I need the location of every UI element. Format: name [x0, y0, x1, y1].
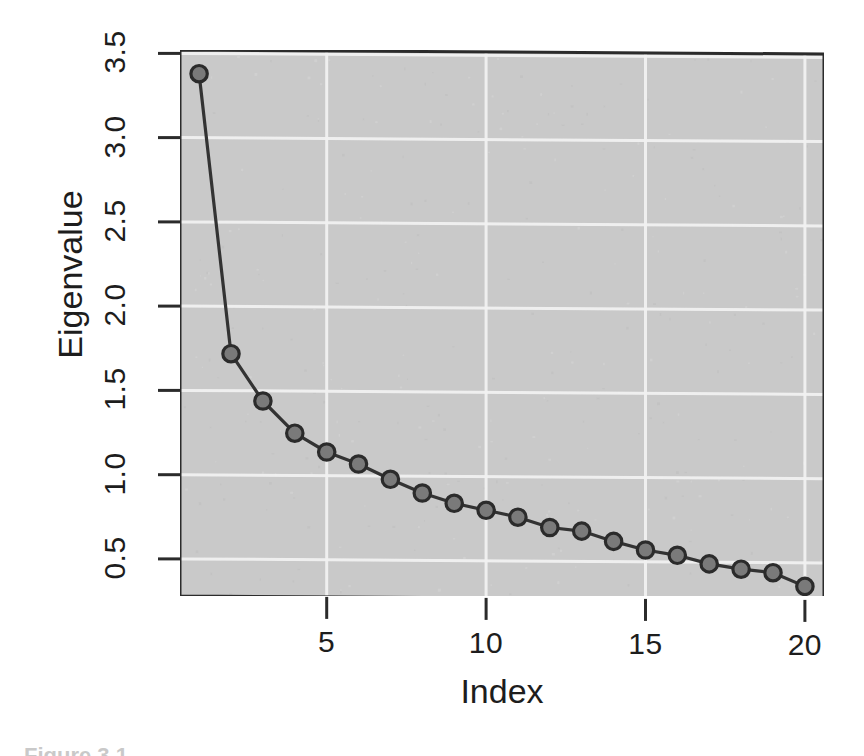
x-tick-label: 20 — [765, 628, 845, 662]
y-tick-label: 3.5 — [98, 7, 132, 97]
x-tick-label: 5 — [287, 625, 367, 659]
data-point-marker — [319, 444, 335, 460]
figure-caption-fragment: Figure 3.1 — [24, 744, 544, 756]
data-point-marker — [542, 519, 558, 535]
data-point-marker — [669, 547, 685, 563]
plot-panel — [180, 50, 824, 596]
data-point-marker — [510, 509, 526, 525]
y-tick-label: 1.5 — [98, 344, 132, 434]
x-tick-label: 10 — [446, 626, 526, 660]
data-point-marker — [287, 425, 303, 441]
data-point-marker — [574, 523, 590, 539]
y-tick-label: 3.0 — [98, 92, 132, 182]
x-axis-title: Index — [180, 672, 824, 711]
y-tick-label: 1.0 — [98, 429, 132, 519]
data-point-marker — [223, 346, 239, 362]
data-point-marker — [478, 502, 494, 518]
plot-svg — [180, 50, 824, 596]
data-point-marker — [350, 456, 366, 472]
data-point-marker — [637, 542, 653, 558]
data-point-marker — [191, 66, 207, 82]
y-tick-label: 2.5 — [98, 176, 132, 266]
data-point-marker — [701, 556, 717, 572]
data-point-marker — [446, 495, 462, 511]
scree-plot-figure: 0.51.01.52.02.53.03.5 5101520 Eigenvalue… — [0, 0, 864, 756]
data-point-marker — [765, 565, 781, 581]
y-tick-label: 2.0 — [98, 260, 132, 350]
y-axis-title: Eigenvalue — [51, 165, 90, 385]
data-point-marker — [382, 471, 398, 487]
data-point-marker — [605, 533, 621, 549]
data-point-marker — [797, 578, 813, 594]
data-point-marker — [414, 485, 430, 501]
x-tick-label: 15 — [605, 627, 685, 661]
data-point-marker — [733, 561, 749, 577]
data-point-marker — [255, 393, 271, 409]
y-tick-label: 0.5 — [98, 513, 132, 603]
